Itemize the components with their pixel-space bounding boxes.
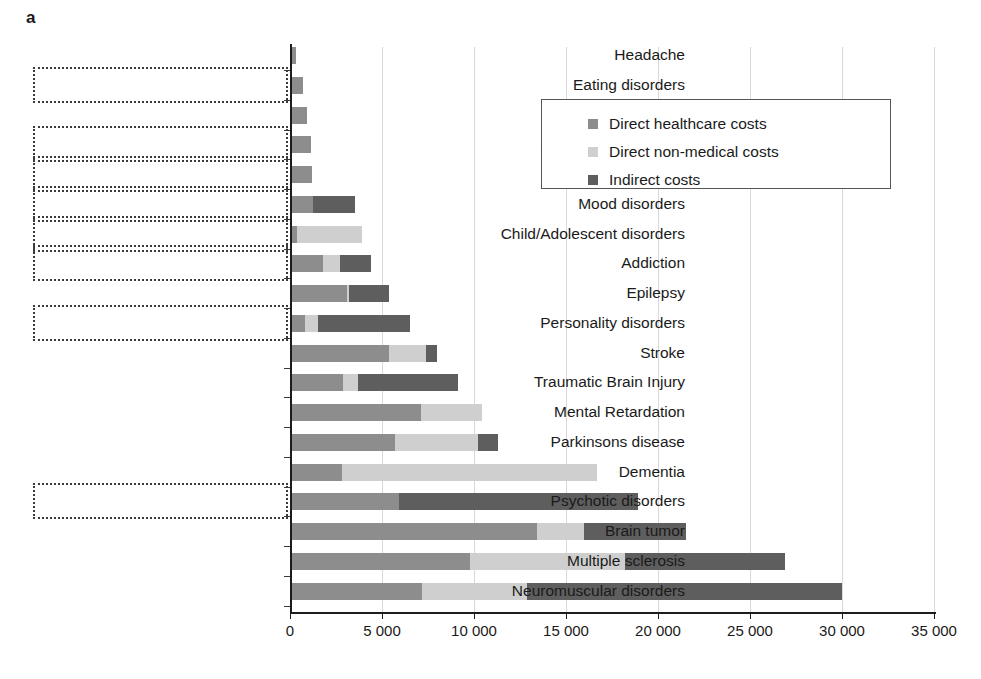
bar-segment (318, 315, 410, 332)
highlight-box (33, 216, 288, 252)
x-tick (750, 612, 751, 619)
bar-segment (290, 434, 395, 451)
highlight-box (33, 156, 288, 192)
bar-segment (323, 255, 340, 272)
y-tick (284, 338, 290, 339)
y-tick (284, 278, 290, 279)
x-tick-label: 35 000 (911, 622, 957, 639)
x-tick-label: 0 (286, 622, 294, 639)
category-label: Traumatic Brain Injury (534, 373, 685, 390)
x-axis-line (290, 612, 936, 614)
bar-segment (343, 374, 358, 391)
bar-segment (342, 464, 598, 481)
y-tick (284, 546, 290, 547)
y-tick (284, 576, 290, 577)
y-tick (284, 308, 290, 309)
y-tick (284, 219, 290, 220)
y-tick (284, 397, 290, 398)
y-tick (284, 516, 290, 517)
y-tick (284, 189, 290, 190)
x-tick (566, 612, 567, 619)
bar-segment (290, 107, 307, 124)
category-label: Mood disorders (578, 195, 685, 212)
x-tick (474, 612, 475, 619)
legend-swatch-icon (588, 147, 598, 157)
bar-segment (389, 345, 426, 362)
bar-segment (290, 553, 470, 570)
x-tick (934, 612, 935, 619)
bar-segment (478, 434, 498, 451)
cost-of-brain-disorders-chart: a 05 00010 00015 00020 00025 00030 00035… (0, 0, 981, 679)
bar-segment (290, 404, 421, 421)
y-tick (284, 70, 290, 71)
legend: Direct healthcare costsDirect non-medica… (541, 99, 891, 189)
x-tick-label: 15 000 (543, 622, 589, 639)
category-label: Eating disorders (573, 76, 685, 93)
y-tick (284, 606, 290, 607)
highlight-box (33, 305, 288, 341)
bar-segment (290, 196, 313, 213)
bar-segment (290, 136, 311, 153)
highlight-box (33, 186, 288, 222)
legend-item: Indirect costs (588, 171, 700, 189)
category-label: Neuromuscular disorders (512, 582, 685, 599)
category-label: Dementia (619, 463, 685, 480)
bar-segment (290, 315, 305, 332)
category-label: Psychotic disorders (551, 492, 685, 509)
bar-segment (395, 434, 478, 451)
bar-segment (290, 345, 389, 362)
y-tick (284, 487, 290, 488)
x-tick (290, 612, 291, 619)
bar-segment (426, 345, 437, 362)
y-tick (284, 130, 290, 131)
y-tick (284, 159, 290, 160)
highlight-box (33, 126, 288, 162)
category-label: Epilepsy (626, 284, 685, 301)
y-tick (284, 368, 290, 369)
bar-segment (421, 404, 483, 421)
y-tick (284, 457, 290, 458)
legend-swatch-icon (588, 119, 598, 129)
x-tick (658, 612, 659, 619)
x-tick (382, 612, 383, 619)
category-label: Brain tumor (605, 522, 685, 539)
bar-segment (305, 315, 318, 332)
highlight-box (33, 245, 288, 281)
bar-segment (290, 464, 342, 481)
category-label: Addiction (621, 254, 685, 271)
legend-swatch-icon (588, 175, 598, 185)
y-tick (284, 100, 290, 101)
bar-segment (290, 255, 323, 272)
bar-segment (349, 285, 389, 302)
legend-label: Direct non-medical costs (609, 143, 779, 161)
category-label: Mental Retardation (554, 403, 685, 420)
legend-item: Direct healthcare costs (588, 115, 767, 133)
y-tick (284, 249, 290, 250)
x-tick-label: 30 000 (819, 622, 865, 639)
x-tick-label: 5 000 (363, 622, 401, 639)
bar-segment (358, 374, 458, 391)
legend-label: Indirect costs (609, 171, 700, 189)
bar-segment (537, 523, 585, 540)
y-axis-line (290, 44, 292, 614)
legend-label: Direct healthcare costs (609, 115, 767, 133)
bar-segment (290, 523, 537, 540)
bar-segment (313, 196, 355, 213)
panel-letter: a (26, 8, 36, 28)
category-label: Stroke (640, 344, 685, 361)
gridline (934, 47, 935, 612)
bar-segment (290, 166, 312, 183)
highlight-box (33, 67, 288, 103)
category-label: Personality disorders (540, 314, 685, 331)
bar-segment (297, 226, 361, 243)
x-tick-label: 20 000 (635, 622, 681, 639)
y-tick (284, 427, 290, 428)
bar-segment (340, 255, 371, 272)
bar-segment (290, 493, 399, 510)
category-label: Multiple sclerosis (567, 552, 685, 569)
legend-item: Direct non-medical costs (588, 143, 779, 161)
bar-segment (290, 285, 347, 302)
bar-segment (290, 374, 343, 391)
x-tick (842, 612, 843, 619)
x-tick-label: 10 000 (451, 622, 497, 639)
